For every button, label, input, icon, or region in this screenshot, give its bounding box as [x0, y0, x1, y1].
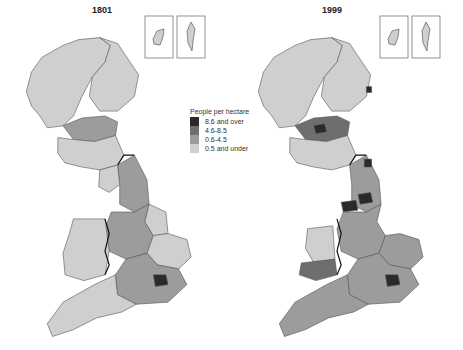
- map-1801: [26, 16, 205, 337]
- region-midlands: [105, 204, 153, 259]
- region-cumbria: [99, 165, 120, 192]
- legend: People per hectare 8.6 and over 4.6-8.5 …: [190, 108, 249, 153]
- legend-item: 4.6-8.5: [190, 126, 249, 135]
- legend-item: 8.6 and over: [190, 117, 249, 126]
- map-title-1999: 1999: [322, 5, 342, 15]
- map-1999: [258, 16, 440, 337]
- region-london: [153, 275, 168, 287]
- region-wales: [63, 219, 109, 281]
- region-glasgow: [314, 124, 327, 134]
- legend-swatch: [190, 126, 199, 135]
- legend-title: People per hectare: [190, 108, 249, 115]
- legend-swatch: [190, 135, 199, 144]
- region-northern-england: [118, 155, 150, 212]
- region-london: [385, 275, 400, 287]
- legend-swatch: [190, 144, 199, 153]
- region-midlands: [337, 204, 385, 259]
- region-tyneside: [364, 159, 371, 167]
- region-west-yorkshire: [358, 192, 373, 204]
- legend-label: 8.6 and over: [205, 117, 244, 126]
- region-aberdeen: [366, 87, 371, 93]
- legend-label: 0.5 and under: [205, 144, 248, 153]
- region-mid-wales: [306, 226, 335, 263]
- legend-item: 0.6-4.5: [190, 135, 249, 144]
- map-title-1801: 1801: [92, 5, 112, 15]
- legend-label: 0.6-4.5: [205, 135, 227, 144]
- region-south-wales: [299, 259, 337, 281]
- figure-canvas: [0, 0, 463, 350]
- legend-swatch: [190, 117, 199, 126]
- legend-item: 0.5 and under: [190, 144, 249, 153]
- region-greater-manchester-merseyside: [341, 200, 358, 212]
- legend-label: 4.6-8.5: [205, 126, 227, 135]
